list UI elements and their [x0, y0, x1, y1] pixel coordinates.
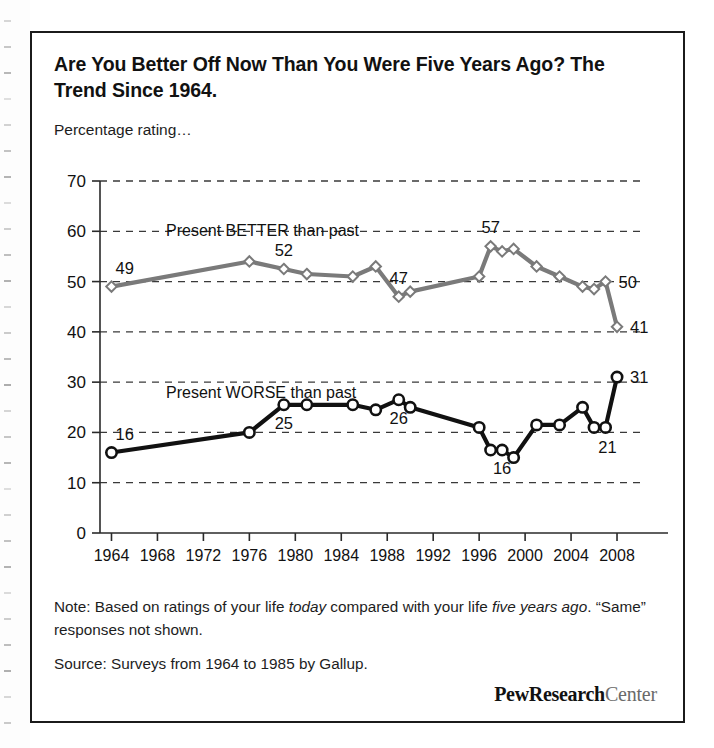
pew-research-center-logo: PewResearchCenter	[494, 683, 657, 706]
scan-artifact	[4, 514, 11, 516]
data-point-marker	[394, 395, 404, 405]
data-point-marker	[474, 271, 484, 281]
data-point-marker	[497, 445, 507, 455]
y-tick-label: 20	[67, 423, 86, 442]
data-point-label: 47	[390, 269, 408, 287]
data-point-marker	[244, 427, 254, 437]
data-point-label: 57	[481, 218, 499, 236]
data-point-label: 21	[598, 438, 616, 456]
chart-notes: Note: Based on ratings of your life toda…	[54, 595, 654, 673]
y-tick-label: 0	[77, 524, 86, 543]
logo-primary: PewResearch	[494, 683, 605, 705]
x-tick-label: 2000	[507, 547, 543, 564]
x-tick-label: 1964	[94, 547, 130, 564]
x-tick-label: 1968	[140, 547, 176, 564]
scan-artifact	[4, 254, 11, 256]
scan-artifact	[4, 722, 11, 724]
scan-artifact	[4, 280, 11, 282]
scan-artifact	[4, 98, 11, 100]
scan-artifact	[4, 20, 11, 22]
scan-artifact	[4, 644, 11, 646]
scan-artifact	[4, 384, 11, 386]
data-point-label: 16	[493, 459, 511, 477]
x-tick-label: 1984	[323, 547, 359, 564]
data-point-label: 25	[275, 414, 293, 432]
y-tick-label: 60	[67, 222, 86, 241]
x-tick-label: 2008	[599, 547, 635, 564]
y-tick-label: 70	[67, 172, 86, 191]
data-point-marker	[600, 422, 610, 432]
data-point-label: 49	[115, 259, 133, 277]
y-tick-label: 10	[67, 474, 86, 493]
scan-artifact	[4, 592, 11, 594]
scan-artifact	[4, 462, 11, 464]
data-point-label: 31	[630, 368, 648, 386]
data-point-marker	[302, 269, 312, 279]
series-annotation: Present WORSE than past	[166, 384, 357, 401]
scan-artifact	[4, 176, 11, 178]
data-point-marker	[589, 422, 599, 432]
data-point-marker	[279, 400, 289, 410]
scan-artifact	[4, 696, 11, 698]
data-point-label: 16	[115, 425, 133, 443]
data-point-label: 41	[630, 318, 648, 336]
scan-artifact	[4, 358, 11, 360]
data-point-label: 50	[619, 273, 637, 291]
line-chart: 0102030405060701964196819721976198019841…	[32, 33, 683, 593]
series-line	[112, 246, 618, 326]
data-point-label: 26	[390, 409, 408, 427]
x-tick-label: 2004	[553, 547, 589, 564]
scan-artifact	[4, 410, 11, 412]
data-point-marker	[485, 445, 495, 455]
data-point-marker	[279, 264, 289, 274]
y-tick-label: 50	[67, 273, 86, 292]
data-point-marker	[577, 402, 587, 412]
data-point-label: 52	[275, 241, 293, 259]
note-emphasis-today: today	[289, 598, 326, 615]
x-tick-label: 1996	[461, 547, 497, 564]
data-point-marker	[106, 281, 116, 291]
data-point-marker	[371, 405, 381, 415]
data-point-marker	[244, 256, 254, 266]
scan-artifact	[4, 228, 11, 230]
scan-artifact	[4, 332, 11, 334]
scan-artifact	[4, 566, 11, 568]
scan-artifact	[4, 46, 11, 48]
scan-artifact	[4, 124, 11, 126]
chart-card: Are You Better Off Now Than You Were Fiv…	[30, 31, 685, 723]
scan-artifact	[4, 202, 11, 204]
scan-artifact	[4, 150, 11, 152]
scan-artifact	[4, 618, 11, 620]
scan-artifact	[4, 540, 11, 542]
x-tick-label: 1980	[278, 547, 314, 564]
scan-artifact	[4, 436, 11, 438]
data-point-marker	[612, 372, 622, 382]
x-tick-label: 1976	[232, 547, 268, 564]
data-point-marker	[106, 447, 116, 457]
scan-artifact	[4, 72, 11, 74]
note-prefix: Note: Based on ratings of your life	[54, 598, 289, 615]
scan-artifact	[4, 488, 11, 490]
x-tick-label: 1988	[369, 547, 405, 564]
data-point-marker	[348, 400, 358, 410]
x-tick-label: 1972	[186, 547, 222, 564]
data-point-marker	[302, 400, 312, 410]
data-point-marker	[554, 420, 564, 430]
source-text: Source: Surveys from 1964 to 1985 by Gal…	[54, 655, 654, 673]
scan-artifact	[4, 670, 11, 672]
scan-artifact	[4, 306, 11, 308]
note-emphasis-five-years-ago: five years ago	[492, 598, 587, 615]
series-annotation: Present BETTER than past	[166, 222, 360, 239]
data-point-marker	[612, 322, 622, 332]
y-tick-label: 30	[67, 373, 86, 392]
note-text: Note: Based on ratings of your life toda…	[54, 595, 654, 641]
note-middle: compared with your life	[326, 598, 492, 615]
data-point-marker	[474, 422, 484, 432]
page-scan-edge	[0, 0, 30, 748]
logo-secondary: Center	[605, 683, 657, 705]
y-tick-label: 40	[67, 323, 86, 342]
data-point-marker	[531, 420, 541, 430]
x-tick-label: 1992	[415, 547, 451, 564]
